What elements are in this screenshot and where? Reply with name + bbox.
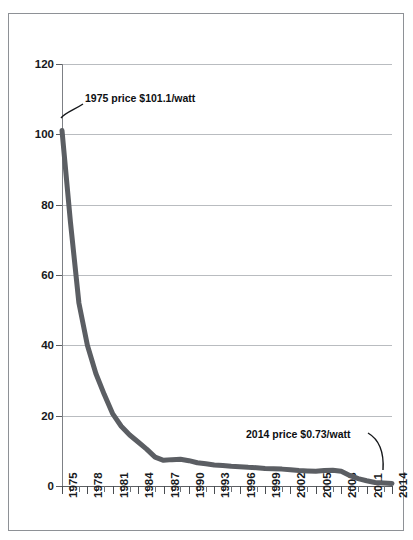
- x-tick-1975: [62, 486, 63, 494]
- x-tick-1995: [231, 486, 232, 492]
- y-axis-label-0: 0: [14, 486, 54, 487]
- x-tick-2004: [307, 486, 308, 492]
- cut-off-title-remnant: [40, 0, 380, 7]
- chart-page: 020406080100120 197519781981198419871990…: [0, 0, 413, 540]
- y-axis-label-120: 120: [14, 64, 54, 65]
- x-tick-2010: [358, 486, 359, 492]
- x-tick-2002: [290, 486, 291, 494]
- x-tick-2014: [392, 486, 393, 494]
- x-tick-1978: [87, 486, 88, 494]
- y-axis-label-100: 100: [14, 134, 54, 135]
- x-axis-label-2014: 2014: [397, 472, 409, 498]
- x-tick-1977: [79, 486, 80, 492]
- x-tick-1980: [104, 486, 105, 492]
- data-series-solar-price: [62, 64, 392, 486]
- x-tick-1987: [164, 486, 165, 494]
- annotation-2014-price: 2014 price $0.73/watt: [246, 428, 350, 440]
- x-tick-2008: [341, 486, 342, 494]
- x-tick-2001: [282, 486, 283, 492]
- x-tick-1993: [214, 486, 215, 494]
- y-axis-label-20: 20: [14, 416, 54, 417]
- x-tick-2005: [316, 486, 317, 494]
- x-tick-1990: [189, 486, 190, 494]
- x-tick-1986: [155, 486, 156, 492]
- x-tick-2011: [367, 486, 368, 494]
- x-tick-1984: [138, 486, 139, 494]
- y-axis-label-80: 80: [14, 205, 54, 206]
- chart-frame: 020406080100120 197519781981198419871990…: [8, 13, 404, 531]
- annotation-1975-price: 1975 price $101.1/watt: [85, 92, 195, 104]
- x-tick-1981: [113, 486, 114, 494]
- y-axis-label-40: 40: [14, 345, 54, 346]
- x-tick-1996: [240, 486, 241, 494]
- plot-area: 020406080100120 197519781981198419871990…: [62, 64, 392, 486]
- y-axis-label-60: 60: [14, 275, 54, 276]
- x-tick-1999: [265, 486, 266, 494]
